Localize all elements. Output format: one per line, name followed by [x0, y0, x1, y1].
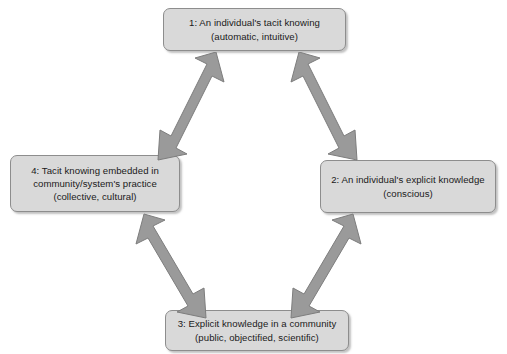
node-top-line-2: (automatic, intuitive) [211, 30, 298, 43]
double-arrow-bottom-left-icon [128, 212, 212, 320]
node-tacit-knowing-individual: 1: An individual's tacit knowing (automa… [163, 8, 346, 51]
node-left-line-1: 4: Tacit knowing embedded in [31, 164, 159, 177]
double-arrow-bottom-right-icon [283, 212, 371, 320]
node-explicit-knowledge-individual: 2: An individual's explicit knowledge (c… [320, 160, 496, 213]
node-right-line-2: (conscious) [383, 187, 433, 200]
node-left-line-3: (collective, cultural) [53, 190, 136, 203]
double-arrow-top-right-icon [285, 52, 363, 162]
node-top-line-1: 1: An individual's tacit knowing [189, 16, 320, 29]
node-tacit-knowing-community: 4: Tacit knowing embedded in community/s… [10, 155, 180, 212]
node-bottom-line-2: (public, objectified, scientific) [195, 331, 319, 344]
diagram-canvas: 1: An individual's tacit knowing (automa… [0, 0, 507, 354]
node-left-line-2: community/system's practice [33, 177, 157, 190]
double-arrow-top-left-icon [152, 52, 230, 162]
node-right-line-1: 2: An individual's explicit knowledge [331, 173, 485, 186]
